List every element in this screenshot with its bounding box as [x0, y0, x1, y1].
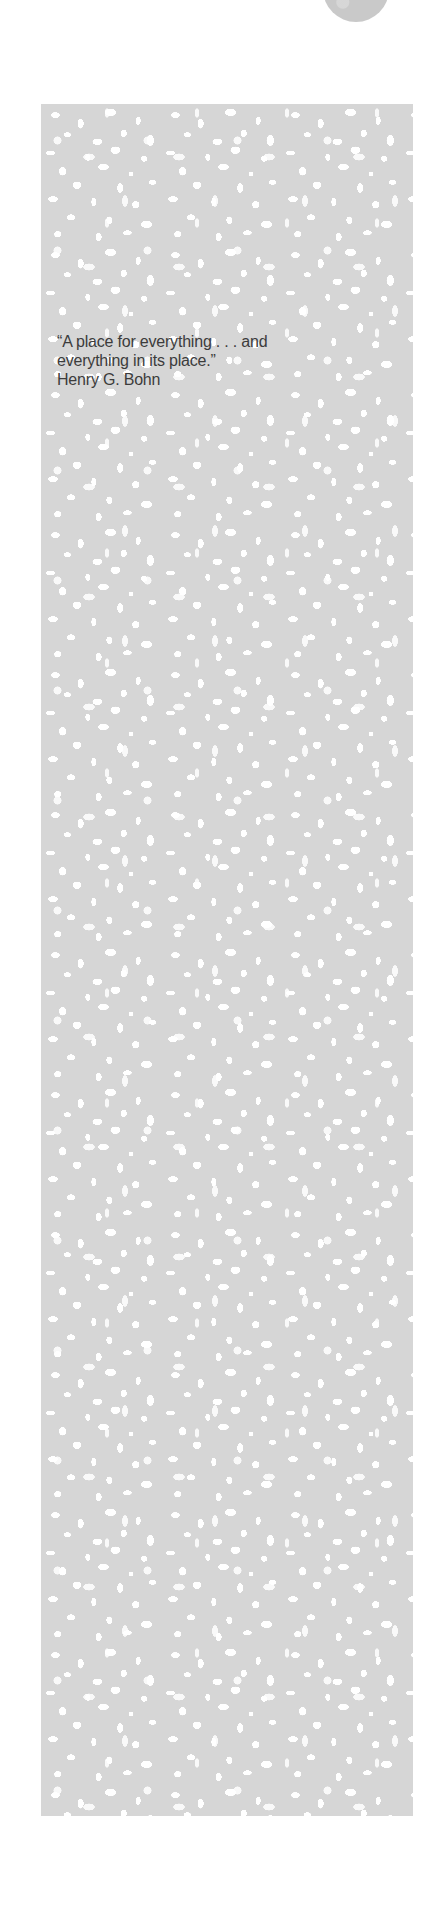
quote-line-2: everything in its place.”	[57, 351, 357, 370]
decorative-circle	[323, 0, 389, 22]
quote-author: Henry G. Bohn	[57, 370, 357, 389]
epigraph-quote: “A place for everything . . . and everyt…	[57, 332, 357, 389]
quote-line-1: “A place for everything . . . and	[57, 332, 357, 351]
